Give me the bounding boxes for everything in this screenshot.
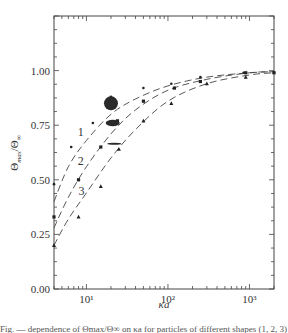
curve-label-2: 2 [78, 154, 84, 168]
curve-label-3: 3 [79, 184, 85, 198]
marker-dot [70, 146, 73, 149]
marker-square [99, 145, 102, 148]
marker-square [173, 86, 176, 89]
figure-caption: Fig. — dependence of Θmax/Θ∞ on κa for p… [0, 324, 288, 333]
marker-dot [199, 76, 202, 79]
curve-1 [54, 72, 274, 202]
marker-square [272, 71, 275, 74]
marker-dot [142, 87, 145, 90]
marker-triangle [205, 82, 209, 86]
fit-curves [54, 72, 274, 246]
disk-icon [107, 143, 121, 145]
marker-triangle [169, 101, 173, 105]
marker-dot [92, 122, 95, 125]
y-axis-ticks: 0.000.250.500.751.00 [31, 16, 274, 295]
marker-square [244, 71, 247, 74]
y-tick-label: 0.75 [31, 119, 51, 131]
marker-dot [170, 82, 173, 85]
y-tick-label: 1.00 [31, 65, 51, 77]
marker-dot [53, 183, 56, 186]
marker-triangle [52, 243, 56, 247]
y-axis-title-den-sub: ∞ [15, 135, 23, 140]
marker-triangle [77, 215, 81, 219]
plot-border [54, 16, 274, 289]
marker-square [142, 100, 145, 103]
x-tick-label: 10¹ [79, 293, 93, 305]
sphere-icon [104, 96, 118, 110]
x-axis-ticks: 10¹10²10³ [54, 16, 274, 305]
marker-square [77, 178, 80, 181]
y-axis-title-sub: max [15, 150, 23, 163]
marker-square [52, 215, 55, 218]
y-tick-label: 0.50 [31, 174, 51, 186]
y-tick-label: 0.25 [31, 228, 51, 240]
marker-triangle [117, 147, 121, 151]
curve-label-1: 1 [78, 125, 84, 139]
curve-3 [54, 73, 274, 246]
marker-triangle [99, 184, 103, 188]
curve-labels: 123 [78, 125, 85, 198]
y-axis-title-main: Θ [8, 163, 20, 171]
y-axis-title-den: /Θ [8, 140, 20, 151]
x-axis-title: κa [159, 298, 170, 310]
y-tick-label: 0.00 [31, 283, 51, 295]
plot-frame [54, 16, 274, 289]
chart: 10¹10²10³ 0.000.250.500.751.00 123 κa Θm… [0, 0, 288, 333]
data-points [52, 71, 276, 247]
x-tick-label: 10³ [242, 293, 257, 305]
y-axis-title: Θmax/Θ∞ [8, 135, 23, 171]
marker-square [199, 80, 202, 83]
curve-2 [54, 72, 274, 228]
ellipsoid-icon [106, 120, 120, 126]
